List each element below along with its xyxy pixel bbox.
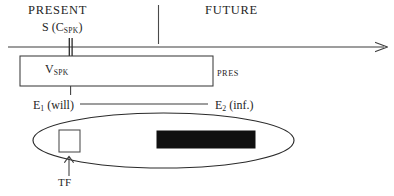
viewpoint-subscript: SPK [54, 68, 69, 77]
speech-time-label: S (CSPK) [42, 21, 83, 33]
speech-time-main: S (C [42, 20, 64, 34]
viewpoint-main: V [45, 62, 54, 76]
tense-label: PRES [217, 70, 239, 78]
speech-time-paren: ) [79, 20, 83, 34]
present-era-label: PRESENT [28, 4, 87, 17]
event-two-subscript: 2 [222, 104, 226, 113]
event-one-label: E1 (will) [33, 99, 74, 111]
speech-time-subscript: SPK [64, 26, 79, 35]
temporal-frame-label: TF [58, 177, 72, 188]
event-one-subscript: 1 [40, 104, 44, 113]
diagram-canvas: PRESENT FUTURE S (CSPK) VSPK PRES E1 (wi… [0, 0, 394, 196]
open-interval-square [59, 130, 80, 152]
event-two-label: E2 (inf.) [215, 99, 254, 111]
viewpoint-label: VSPK [45, 63, 69, 75]
future-era-label: FUTURE [205, 4, 258, 17]
filled-interval-bar [157, 131, 255, 148]
event-one-tail: (will) [44, 98, 74, 112]
event-two-tail: (inf.) [226, 98, 253, 112]
